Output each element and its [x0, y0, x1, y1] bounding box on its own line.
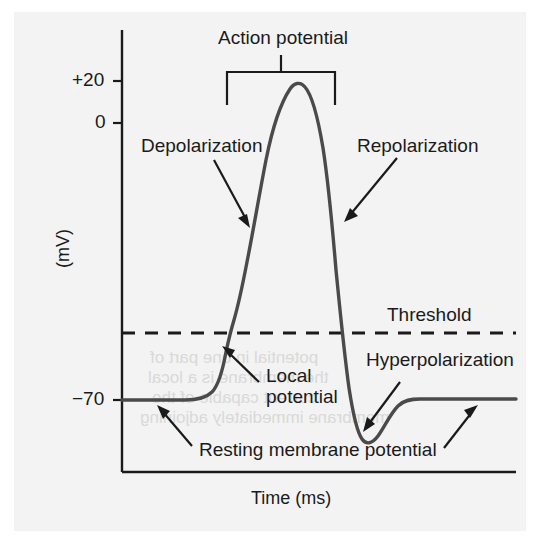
y-axis-title: (mV) [53, 219, 74, 279]
annotation-local-potential-line2: potential [266, 387, 338, 407]
y-tick-label-zero: 0 [95, 112, 106, 132]
annotation-repolarization: Repolarization [357, 136, 478, 156]
local-potential-arrow-line [228, 352, 259, 382]
annotation-hyperpolarization: Hyperpolarization [366, 350, 514, 370]
resting-right-arrow-line [444, 412, 472, 448]
resting-right-arrow-head [464, 405, 478, 418]
annotation-threshold: Threshold [387, 305, 472, 325]
repolarization-arrow-line [350, 158, 397, 215]
y-tick-label-plus20: +20 [72, 70, 104, 90]
annotation-depolarization: Depolarization [141, 136, 262, 156]
annotation-resting-membrane-potential: Resting membrane potential [199, 440, 437, 460]
depolarization-arrow-head [238, 214, 250, 228]
hyperpolarization-arrow-line [368, 382, 400, 425]
annotation-action-potential: Action potential [218, 28, 348, 48]
y-tick-label-minus70: −70 [72, 389, 104, 409]
x-axis-title: Time (ms) [251, 489, 331, 508]
annotation-local-potential-line1: Local [266, 366, 311, 386]
action-potential-bracket [227, 72, 335, 105]
depolarization-arrow-line [214, 160, 247, 221]
action-potential-figure: potential in one part of the membrane is… [0, 0, 534, 543]
resting-left-arrow-line [163, 412, 192, 446]
repolarization-arrow-head [344, 208, 358, 222]
